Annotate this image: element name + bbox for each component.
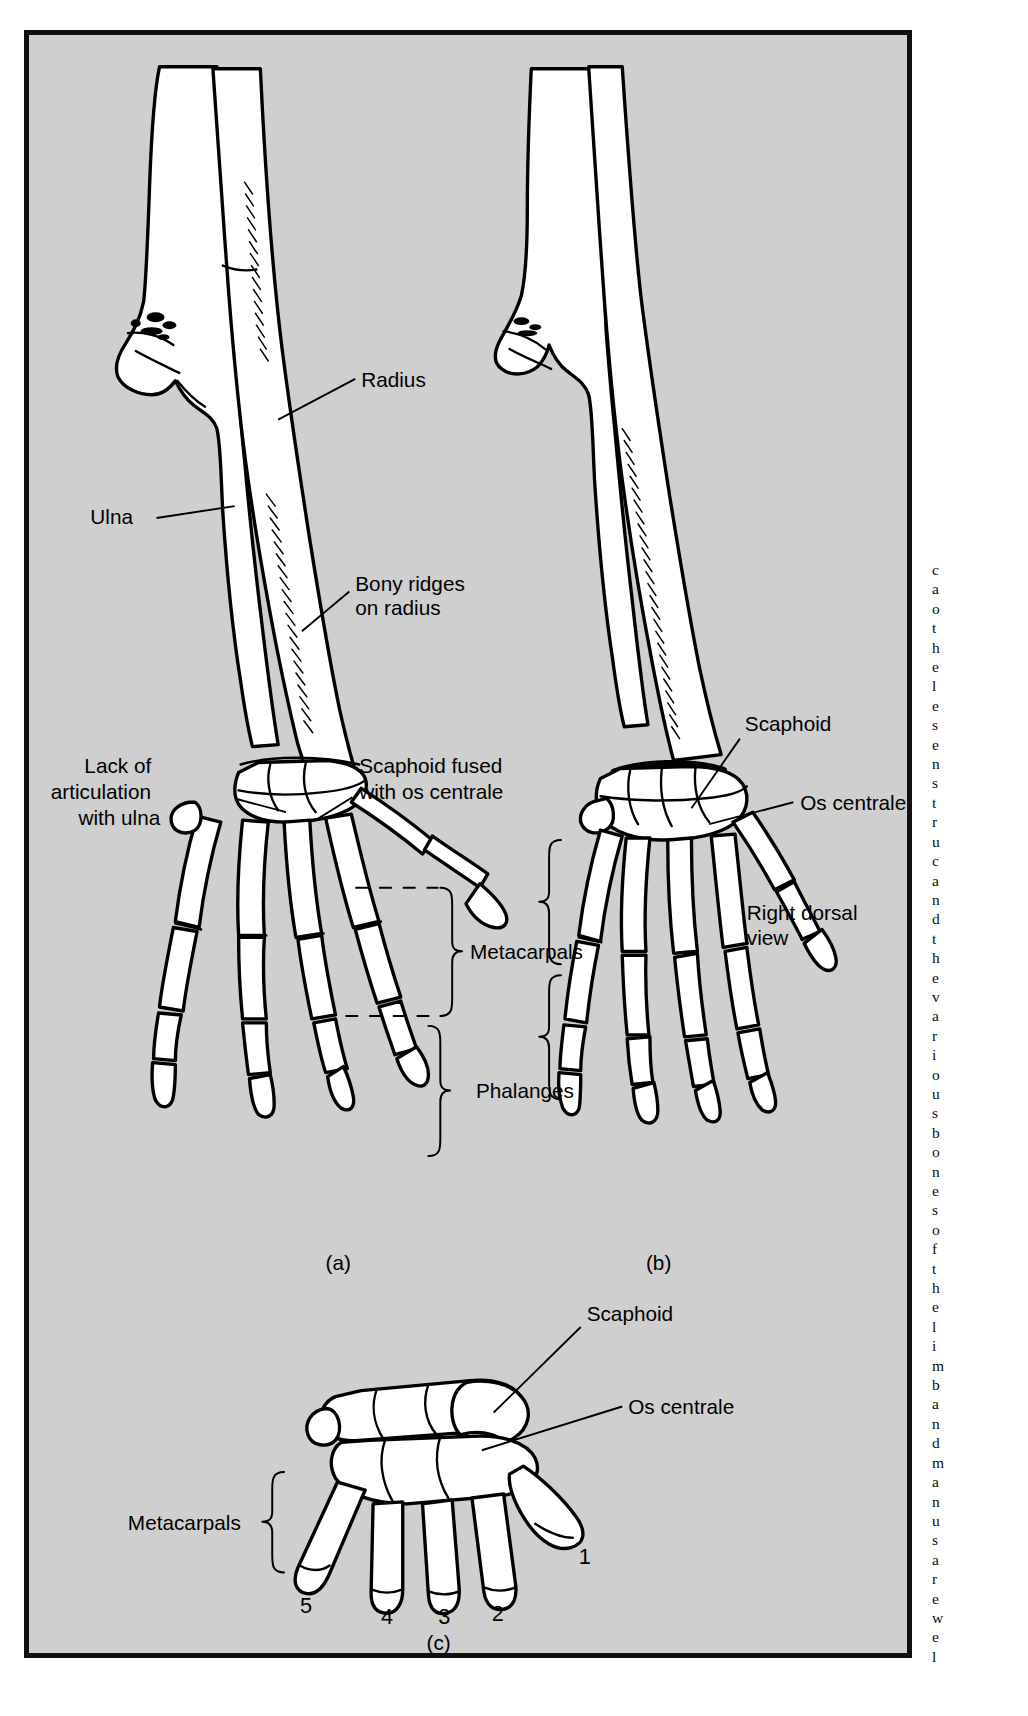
margin-text-line: l	[932, 1647, 1024, 1666]
margin-text-line: n	[932, 1414, 1024, 1433]
label-metacarpals-c: Metacarpals	[128, 1511, 241, 1534]
digit1-phalanx1-a	[424, 836, 487, 888]
margin-text-line: i	[932, 1336, 1024, 1355]
margin-text-line: t	[932, 1259, 1024, 1278]
label-right-dorsal-line2: view	[747, 926, 789, 949]
panel-c-illustration	[295, 1380, 583, 1613]
margin-text-line: m	[932, 1356, 1024, 1375]
digit2-phalanx2-b	[738, 1029, 769, 1079]
margin-text-line: o	[932, 599, 1024, 618]
digit2-phalanx2-a	[379, 1001, 417, 1055]
margin-text-line: e	[932, 735, 1024, 754]
margin-text-line: e	[932, 1297, 1024, 1316]
margin-text-line: n	[932, 890, 1024, 909]
digit3-phalanx1-a	[298, 935, 336, 1018]
label-scaphoid-c: Scaphoid	[587, 1302, 674, 1325]
digit-number-2: 2	[492, 1601, 504, 1626]
digit3-phalanx3-a	[328, 1067, 354, 1110]
margin-text-line: s	[932, 1103, 1024, 1122]
margin-text-line: r	[932, 812, 1024, 831]
digit1-metacarpal-b	[733, 812, 794, 890]
carpals-b	[596, 766, 747, 840]
label-scaphoid-b: Scaphoid	[745, 712, 832, 735]
label-phalanges: Phalanges	[476, 1079, 574, 1102]
digit4-phalanx3-b	[633, 1083, 658, 1124]
digit-number-1: 1	[579, 1544, 591, 1569]
margin-text-line: s	[932, 715, 1024, 734]
margin-text-line: m	[932, 1453, 1024, 1472]
digit3-phalanx2-b	[686, 1039, 715, 1087]
margin-text-line: b	[932, 1375, 1024, 1394]
label-metacarpals: Metacarpals	[470, 940, 583, 963]
margin-text-line: d	[932, 1433, 1024, 1452]
metacarpal-3-c	[423, 1500, 460, 1614]
margin-text-line: e	[932, 1181, 1024, 1200]
margin-text-line: o	[932, 1142, 1024, 1161]
digit4-phalanx3-a	[249, 1075, 274, 1117]
digit3-metacarpal-a	[284, 820, 322, 937]
margin-text-line: w	[932, 1608, 1024, 1627]
leader-scaphoid-c	[494, 1327, 581, 1412]
accessory-carpal-c	[307, 1409, 340, 1446]
margin-text-line: a	[932, 1472, 1024, 1491]
margin-text-line: r	[932, 1569, 1024, 1588]
panel-label-b: (b)	[646, 1251, 671, 1274]
margin-text-line: t	[932, 929, 1024, 948]
label-os-centrale-c: Os centrale	[628, 1395, 734, 1418]
margin-text-line: u	[932, 1084, 1024, 1103]
panel-b-illustration	[495, 67, 836, 1123]
margin-text-line: h	[932, 638, 1024, 657]
label-os-centrale-b: Os centrale	[800, 791, 906, 814]
margin-text-line: l	[932, 1666, 1024, 1670]
lateral-carpal-a	[171, 802, 201, 833]
digit-joint-seams-a	[175, 922, 381, 938]
margin-text-line: n	[932, 754, 1024, 773]
lateral-carpal-b	[580, 798, 613, 833]
margin-text-line: o	[932, 1220, 1024, 1239]
margin-text-line: u	[932, 832, 1024, 851]
digit2-metacarpal-b	[711, 834, 747, 947]
label-lack-line1: Lack of	[84, 754, 151, 777]
margin-text-line: f	[932, 1239, 1024, 1258]
digit5-metacarpal-b	[579, 830, 623, 941]
margin-text-line: u	[932, 1511, 1024, 1530]
digit2-phalanx1-b	[725, 947, 759, 1028]
panel-label-c: (c)	[426, 1631, 450, 1653]
digit3-phalanx2-a	[314, 1019, 348, 1073]
label-bony-ridges-line2: on radius	[355, 596, 440, 619]
label-scaphoid-fused-line1: Scaphoid fused	[359, 754, 502, 777]
digit2-phalanx1-a	[355, 924, 400, 1004]
digit2-metacarpal-a	[326, 814, 379, 927]
margin-text-line: e	[932, 968, 1024, 987]
margin-text-line: o	[932, 1065, 1024, 1084]
margin-text-line: s	[932, 773, 1024, 792]
margin-text-line: e	[932, 657, 1024, 676]
margin-text-line: l	[932, 676, 1024, 695]
anatomy-illustration: Radius Ulna Bony ridges on radius Lack o…	[29, 35, 907, 1653]
brace-phalanges-a	[428, 1026, 450, 1156]
label-scaphoid-fused-line2: with os centrale	[358, 780, 503, 803]
margin-text-line: a	[932, 1550, 1024, 1569]
digit4-phalanx2-b	[627, 1037, 653, 1085]
margin-text-line: n	[932, 1162, 1024, 1181]
brace-metacarpals-c	[262, 1472, 284, 1572]
metacarpal-5-c	[295, 1482, 365, 1594]
panel-label-a: (a)	[326, 1251, 351, 1274]
margin-text-line: c	[932, 560, 1024, 579]
digit2-phalanx3-b	[750, 1073, 776, 1112]
margin-text-line: r	[932, 1026, 1024, 1045]
margin-text-line: t	[932, 618, 1024, 637]
margin-text-line: e	[932, 1627, 1024, 1646]
digit1-phalanx2-a	[466, 884, 507, 928]
figure-page: Radius Ulna Bony ridges on radius Lack o…	[0, 0, 1028, 1716]
margin-text-line: i	[932, 1045, 1024, 1064]
brace-metacarpals-a	[440, 888, 462, 1016]
margin-text-line: c	[932, 851, 1024, 870]
digit-number-4: 4	[381, 1604, 393, 1629]
margin-text-line: e	[932, 1589, 1024, 1608]
margin-text-column: c a o t h e l e s e n s t r u c a n d t …	[932, 560, 1024, 1670]
margin-text-line: n	[932, 1492, 1024, 1511]
carpals-a	[235, 761, 366, 823]
digit-number-5: 5	[300, 1593, 312, 1618]
margin-text-line: d	[932, 909, 1024, 928]
